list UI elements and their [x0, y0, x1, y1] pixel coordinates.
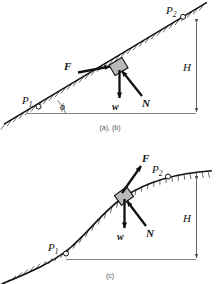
label-height-h-c: H — [182, 212, 192, 224]
figure-canvas: P1 P2 ϕ H F w N P1 P2 H F w N (a), (b) (… — [0, 0, 220, 284]
curve-hatching — [0, 172, 210, 284]
label-height-h: H — [182, 61, 192, 73]
label-p1: P1 — [21, 94, 32, 109]
label-p2: P2 — [165, 4, 177, 19]
label-force-w-c: w — [117, 231, 124, 242]
force-n-arrow-c — [127, 201, 146, 226]
caption-panel-c: (c) — [0, 272, 220, 279]
point-p1-marker-c — [64, 251, 69, 256]
label-p2-subscript: 2 — [173, 10, 177, 19]
label-force-w: w — [112, 101, 119, 112]
label-force-f-c: F — [141, 152, 150, 164]
point-p2-marker — [181, 14, 186, 19]
label-p1-c-subscript: 1 — [55, 247, 59, 256]
label-p1-subscript: 1 — [29, 100, 33, 109]
panel-a-group — [1, 2, 207, 129]
incline-surface-line — [4, 2, 207, 124]
label-force-n: N — [141, 97, 151, 109]
label-force-f: F — [63, 60, 72, 72]
diagram-svg: P1 P2 ϕ H F w N P1 P2 H F w N — [0, 0, 220, 284]
label-phi: ϕ — [60, 102, 65, 112]
label-force-n-c: N — [145, 227, 155, 239]
label-p1-c: P1 — [47, 241, 58, 256]
label-p2-c-subscript: 2 — [159, 169, 163, 178]
label-p2-c: P2 — [151, 163, 163, 178]
caption-panel-ab: (a), (b) — [0, 124, 220, 131]
panel-c-group — [0, 166, 212, 284]
point-p2-marker-c — [166, 174, 171, 179]
point-p1-marker — [36, 104, 41, 109]
force-n-arrow — [122, 71, 142, 96]
